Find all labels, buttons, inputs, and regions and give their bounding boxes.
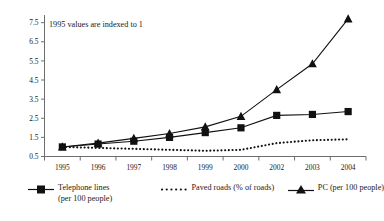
chart-figure: 0.51.52.53.54.55.56.57.5 199519961997199… bbox=[0, 0, 384, 221]
data-point-marker bbox=[345, 108, 352, 115]
y-axis: 0.51.52.53.54.55.56.57.5 bbox=[29, 15, 44, 161]
x-tick-label: 1995 bbox=[55, 163, 70, 172]
x-tick-label: 2004 bbox=[341, 163, 356, 172]
y-tick-label: 0.5 bbox=[29, 152, 39, 161]
chart-annotation: 1995 values are indexed to 1 bbox=[49, 20, 143, 29]
series-path bbox=[62, 139, 348, 150]
legend-label-line1: PC (per 100 people) bbox=[318, 183, 384, 192]
x-tick-label: 1997 bbox=[126, 163, 141, 172]
data-point-marker bbox=[273, 112, 280, 119]
legend-label-telephone-lines: Telephone lines (per 100 people) bbox=[58, 183, 112, 204]
data-point-marker bbox=[237, 112, 246, 120]
x-axis: 199519961997199819992000200220032004 bbox=[45, 157, 367, 172]
y-tick-label: 7.5 bbox=[29, 18, 39, 27]
x-tick-marks bbox=[45, 157, 367, 161]
y-tick-label: 2.5 bbox=[29, 114, 39, 123]
chart-legend: Telephone lines (per 100 people) Paved r… bbox=[0, 183, 384, 221]
y-tick-label: 5.5 bbox=[29, 57, 39, 66]
y-tick-label: 4.5 bbox=[29, 76, 39, 85]
x-tick-label: 2002 bbox=[269, 163, 284, 172]
series-paved-roads bbox=[62, 139, 348, 150]
line-chart-plot: 0.51.52.53.54.55.56.57.5 199519961997199… bbox=[0, 0, 384, 183]
x-tick-label: 1998 bbox=[162, 163, 177, 172]
y-tick-labels: 0.51.52.53.54.55.56.57.5 bbox=[29, 18, 39, 161]
legend-label-pc: PC (per 100 people) bbox=[318, 183, 384, 194]
x-tick-labels: 199519961997199819992000200220032004 bbox=[55, 163, 356, 172]
legend-label-line2: (per 100 people) bbox=[58, 194, 112, 205]
data-point-marker bbox=[272, 85, 281, 93]
x-tick-label: 1999 bbox=[198, 163, 213, 172]
series-layer bbox=[58, 14, 353, 151]
legend-label-line1: Paved roads (% of roads) bbox=[191, 183, 274, 192]
y-tick-label: 1.5 bbox=[29, 133, 39, 142]
dotted-line-icon bbox=[161, 185, 187, 194]
legend-item-telephone-lines[interactable]: Telephone lines (per 100 people) bbox=[28, 183, 161, 204]
series-pc bbox=[58, 14, 353, 150]
x-tick-label: 2000 bbox=[234, 163, 249, 172]
legend-label-paved-roads: Paved roads (% of roads) bbox=[191, 183, 274, 194]
y-tick-marks bbox=[41, 23, 45, 157]
y-tick-label: 6.5 bbox=[29, 37, 39, 46]
y-tick-label: 3.5 bbox=[29, 95, 39, 104]
line-triangle-marker-icon bbox=[288, 185, 314, 194]
x-tick-label: 2003 bbox=[305, 163, 320, 172]
line-square-marker-icon bbox=[28, 185, 54, 194]
data-point-marker bbox=[237, 124, 244, 131]
data-point-marker bbox=[344, 14, 353, 22]
legend-item-pc[interactable]: PC (per 100 people) bbox=[288, 183, 384, 194]
legend-item-paved-roads[interactable]: Paved roads (% of roads) bbox=[161, 183, 287, 194]
data-point-marker bbox=[309, 111, 316, 118]
legend-label-line1: Telephone lines bbox=[58, 183, 110, 192]
x-tick-label: 1996 bbox=[91, 163, 106, 172]
